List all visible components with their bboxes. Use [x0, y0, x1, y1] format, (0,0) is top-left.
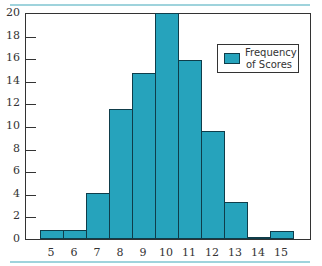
histogram-bar	[247, 237, 271, 239]
x-tick-label: 14	[246, 246, 270, 259]
y-tick	[26, 172, 36, 173]
x-tick-label: 15	[269, 246, 293, 259]
histogram-bar	[155, 13, 179, 239]
x-tick-label: 8	[108, 246, 132, 259]
y-tick-label: 18	[0, 30, 20, 42]
legend-label: Frequency of Scores	[245, 47, 297, 71]
y-tick-label: 10	[0, 120, 20, 132]
y-tick-label: 16	[0, 52, 20, 64]
y-tick-label: 20	[0, 7, 20, 19]
histogram-bar	[63, 230, 87, 239]
y-tick-label: 14	[0, 75, 20, 87]
legend-line-1: Frequency	[245, 47, 297, 59]
legend: Frequency of Scores	[217, 44, 299, 73]
histogram-bar	[132, 73, 156, 239]
y-tick	[26, 127, 36, 128]
histogram-bar	[201, 131, 225, 239]
histogram-bar	[270, 231, 294, 239]
x-tick-label: 12	[200, 246, 224, 259]
y-tick	[26, 195, 36, 196]
histogram-bar	[109, 109, 133, 239]
y-tick	[26, 104, 36, 105]
y-tick	[26, 37, 36, 38]
y-tick-label: 6	[0, 165, 20, 177]
y-tick	[26, 217, 36, 218]
y-tick-label: 2	[0, 210, 20, 222]
y-tick-label: 8	[0, 143, 20, 155]
x-tick-label: 11	[177, 246, 201, 259]
histogram-bar	[178, 60, 202, 239]
x-tick-label: 13	[223, 246, 247, 259]
histogram-bar	[224, 202, 248, 239]
y-tick	[26, 150, 36, 151]
y-tick-label: 12	[0, 97, 20, 109]
y-tick	[26, 59, 36, 60]
x-tick-label: 7	[85, 246, 109, 259]
y-tick-label: 4	[0, 188, 20, 200]
y-tick	[26, 82, 36, 83]
x-tick-label: 10	[154, 246, 178, 259]
x-tick-label: 6	[62, 246, 86, 259]
histogram-bar	[86, 193, 110, 239]
top-rule	[10, 4, 310, 6]
y-tick-label: 0	[0, 233, 20, 245]
histogram-bar	[40, 230, 64, 239]
legend-swatch	[224, 53, 240, 64]
x-tick-label: 9	[131, 246, 155, 259]
legend-line-2: of Scores	[245, 59, 297, 71]
bottom-rule	[10, 261, 310, 263]
x-tick-label: 5	[39, 246, 63, 259]
